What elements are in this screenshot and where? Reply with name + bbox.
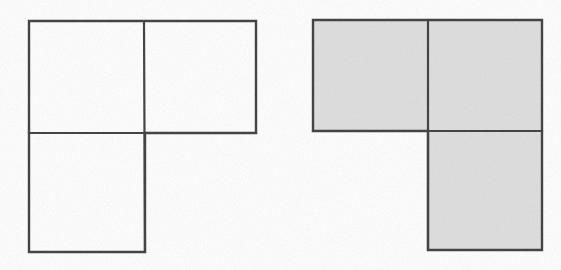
- unshaded-top-left-square: [29, 21, 144, 133]
- shaded-bottom-right-square: [428, 131, 542, 250]
- unshaded-bottom-left-square: [29, 133, 145, 252]
- shaded-top-left-square: [313, 20, 428, 131]
- figure-canvas: [0, 0, 561, 270]
- unshaded-top-right-square: [144, 21, 256, 133]
- tromino-diagram: [0, 0, 561, 270]
- shaded-top-right-square: [428, 20, 542, 131]
